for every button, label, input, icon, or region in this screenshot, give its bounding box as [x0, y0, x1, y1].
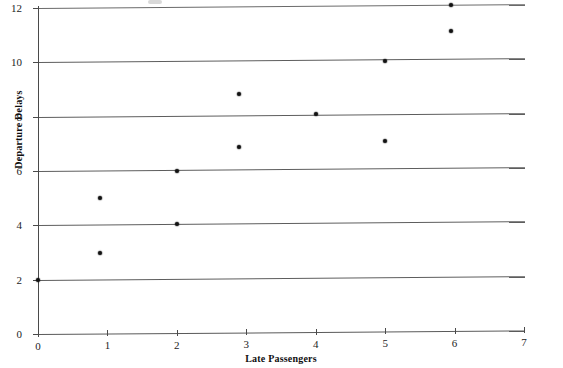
plot-area	[38, 8, 524, 334]
data-point	[383, 139, 387, 143]
data-point	[36, 278, 40, 282]
y-tick-label-4: 4	[2, 220, 22, 231]
y-tick-label-0: 0	[2, 329, 22, 340]
x-tick-label-5: 5	[375, 338, 395, 349]
scatter-chart: 024681012 01234567 Late Passengers Depar…	[0, 0, 563, 368]
data-point	[237, 145, 241, 149]
data-point	[449, 3, 453, 7]
scan-artifact	[148, 0, 162, 4]
data-point	[98, 251, 102, 255]
data-point	[175, 222, 179, 226]
x-tick-label-3: 3	[236, 339, 256, 350]
data-point	[98, 196, 102, 200]
x-axis-label: Late Passengers	[38, 353, 524, 364]
y-tick-label-12: 12	[2, 3, 22, 14]
y-tick-label-2: 2	[2, 275, 22, 286]
x-tick-label-4: 4	[306, 339, 326, 350]
y-axis-label: Departure Delays	[13, 70, 24, 190]
data-point	[175, 169, 179, 173]
x-tick-label-2: 2	[167, 340, 187, 351]
data-point	[314, 112, 318, 116]
data-point	[383, 59, 387, 63]
x-tick-label-1: 1	[97, 340, 117, 351]
x-tick-label-6: 6	[445, 338, 465, 349]
x-tick-7	[524, 327, 525, 333]
y-tick-label-10: 10	[2, 57, 22, 68]
data-point	[449, 29, 453, 33]
x-tick-label-7: 7	[514, 337, 534, 348]
x-tick-label-0: 0	[28, 341, 48, 352]
data-point	[237, 92, 241, 96]
